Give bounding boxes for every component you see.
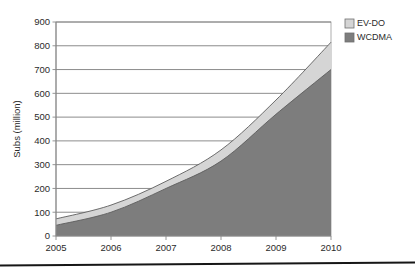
y-tick-label-200: 200: [34, 183, 50, 194]
y-tick-label-400: 400: [34, 135, 50, 146]
x-tick-label-2009: 2009: [265, 242, 286, 253]
x-tick-label-2005: 2005: [45, 242, 66, 253]
x-tick-label-2008: 2008: [210, 242, 231, 253]
y-tick-label-100: 100: [34, 207, 50, 218]
stacked-area-chart: 0100200300400500600700800900 20052006200…: [0, 0, 415, 276]
legend-swatch-ev-do: [345, 19, 354, 28]
legend-label-ev-do: EV-DO: [357, 18, 385, 28]
y-tick-label-600: 600: [34, 88, 50, 99]
y-axis-title: Subs (million): [11, 100, 22, 158]
x-tick-label-2007: 2007: [155, 242, 176, 253]
y-tick-label-700: 700: [34, 64, 50, 75]
y-tick-label-300: 300: [34, 159, 50, 170]
legend-item-wcdma: WCDMA: [345, 32, 392, 42]
legend-item-ev-do: EV-DO: [345, 18, 385, 28]
x-tick-label-2006: 2006: [100, 242, 121, 253]
y-tick-label-900: 900: [34, 16, 50, 27]
y-tick-label-0: 0: [45, 230, 50, 241]
y-tick-label-500: 500: [34, 111, 50, 122]
legend-swatch-wcdma: [345, 33, 354, 42]
chart-container: 0100200300400500600700800900 20052006200…: [0, 0, 415, 276]
y-tick-label-800: 800: [34, 40, 50, 51]
legend-label-wcdma: WCDMA: [357, 32, 392, 42]
x-tick-label-2010: 2010: [320, 242, 341, 253]
